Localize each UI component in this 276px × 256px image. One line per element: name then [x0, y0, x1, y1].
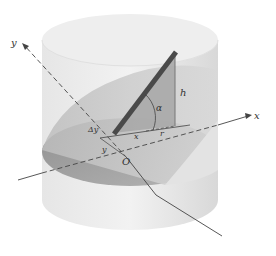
angle-label: α	[156, 103, 162, 113]
x-axis-label: x	[254, 110, 260, 121]
x-arrow-icon	[245, 113, 252, 119]
delta-y-label: Δy	[87, 125, 99, 134]
x-segment-label: x	[134, 132, 139, 141]
y-segment-label: y	[101, 145, 107, 154]
origin-label: O	[122, 156, 130, 167]
height-label: h	[180, 87, 186, 98]
cylinder-wedge-diagram: y x O α h x r Δy y	[0, 0, 276, 256]
y-axis-label: y	[10, 37, 17, 48]
